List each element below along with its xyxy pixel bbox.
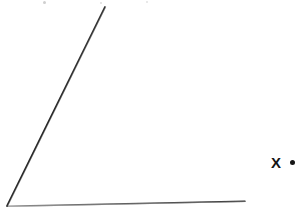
bullet-dot-marker — [290, 160, 295, 165]
scan-speck — [100, 2, 102, 4]
angle-diagram — [0, 0, 306, 211]
diagonal-ray — [7, 7, 105, 206]
horizontal-ray — [7, 201, 245, 206]
scan-speck — [146, 1, 148, 3]
figure-canvas: X — [0, 0, 306, 211]
diagonal-ray-halo — [8, 7, 106, 206]
horizontal-ray-halo — [7, 202, 245, 207]
point-label-x: X — [271, 155, 281, 170]
scan-speck — [43, 1, 46, 4]
